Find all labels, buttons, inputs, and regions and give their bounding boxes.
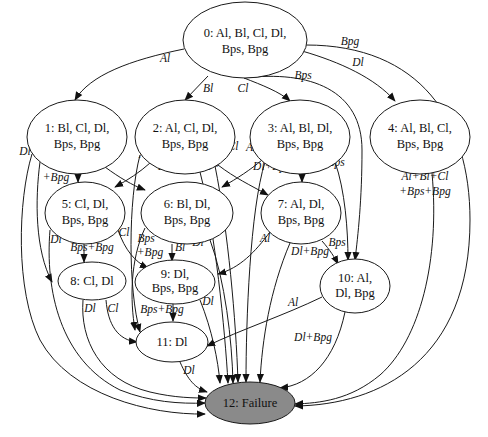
edge-label-9-11: Bps+Bpg bbox=[140, 303, 184, 316]
edge-7-12 bbox=[260, 243, 290, 382]
node-3[interactable]: 3: Al, Bl, Dl, Bps, Bpg bbox=[250, 100, 350, 174]
edge-3-12 bbox=[246, 162, 265, 382]
edge-2-5 bbox=[115, 163, 150, 187]
node-6[interactable]: 6: Bl, Dl, Bps, Bpg bbox=[141, 182, 233, 244]
node-6-label-line1: 6: Bl, Dl, bbox=[164, 197, 211, 211]
edge-label-0-3: Cl bbox=[238, 82, 249, 94]
node-10[interactable]: 10: Al, Dl, Bpg bbox=[320, 259, 390, 313]
node-10-label-line1: 10: Al, bbox=[338, 271, 372, 285]
edge-label-0-10: Bps bbox=[294, 69, 312, 82]
node-8-label-line1: 8: Cl, Dl bbox=[70, 274, 114, 288]
node-4-label-line2: Bps, Bpg bbox=[397, 137, 444, 151]
node-11[interactable]: 11: Dl bbox=[136, 322, 208, 362]
node-10-label-line2: Dl, Bpg bbox=[335, 286, 375, 300]
node-9-label-line1: 9: Dl, bbox=[161, 267, 189, 281]
edge-label-0-12: Bpg bbox=[341, 35, 360, 48]
node-12-failure[interactable]: 12: Failure bbox=[205, 382, 295, 424]
node-4-label-line1: 4: Al, Bl, Cl, bbox=[388, 121, 452, 135]
node-7-label-line1: 7: Al, Dl, bbox=[278, 197, 325, 211]
edge-label-7-12: Dl+Bpg bbox=[290, 245, 329, 258]
node-7-label-line2: Bps, Bpg bbox=[278, 213, 325, 227]
node-7[interactable]: 7: Al, Dl, Bps, Bpg bbox=[261, 182, 341, 244]
edge-label-0-1: Al bbox=[159, 52, 170, 64]
edge-label-8-12: Dl bbox=[83, 302, 96, 314]
edge-label-11-12: Dl bbox=[182, 364, 195, 376]
edge-label-10-12: Dl+Bpg bbox=[293, 331, 332, 344]
node-2-label-line1: 2: Al, Cl, Dl, bbox=[153, 121, 218, 135]
edge-label-6-11-line2: +Bpg bbox=[137, 246, 164, 259]
node-0-label-line2: Bps, Bpg bbox=[222, 42, 269, 56]
node-5-label-line1: 5: Cl, Dl, bbox=[62, 197, 109, 211]
edge-label-4-12-line2: +Bps+Bpg bbox=[399, 185, 451, 198]
node-2[interactable]: 2: Al, Cl, Dl, Bps, Bpg bbox=[135, 100, 235, 174]
node-12-label: 12: Failure bbox=[223, 396, 278, 410]
node-6-label-line2: Bps, Bpg bbox=[164, 213, 211, 227]
edge-label-7-10: Bps bbox=[328, 236, 346, 249]
node-9-label-line2: Bps, Bpg bbox=[152, 281, 199, 295]
edge-label-7-9: Al bbox=[259, 232, 270, 244]
node-3-label-line2: Bps, Bpg bbox=[277, 137, 324, 151]
edge-5-12 bbox=[49, 230, 205, 403]
node-3-label-line1: 3: Al, Bl, Dl, bbox=[268, 121, 333, 135]
node-4[interactable]: 4: Al, Bl, Cl, Bps, Bpg bbox=[370, 100, 470, 174]
state-transition-diagram: Al Bl Cl Dl Bps Bpg Bl Cl Bps +Bpg Dl Al… bbox=[0, 0, 488, 437]
node-2-label-line2: Bps, Bpg bbox=[162, 137, 209, 151]
edge-label-8-11: Cl bbox=[108, 302, 119, 314]
node-9[interactable]: 9: Dl, Bps, Bpg bbox=[135, 260, 215, 304]
edge-10-12 bbox=[280, 312, 345, 388]
edge-label-0-4: Dl bbox=[351, 56, 364, 68]
node-0[interactable]: 0: Al, Bl, Cl, Dl, Bps, Bpg bbox=[183, 2, 307, 78]
node-1-label-line1: 1: Bl, Cl, Dl, bbox=[45, 121, 110, 135]
node-5-label-line2: Bps, Bpg bbox=[62, 213, 109, 227]
nodes: 0: Al, Bl, Cl, Dl, Bps, Bpg 1: Bl, Cl, D… bbox=[27, 2, 470, 424]
edge-0-3 bbox=[244, 78, 290, 101]
edge-label-0-2: Bl bbox=[203, 82, 213, 94]
edge-label-10-11: Al bbox=[287, 296, 298, 308]
node-5[interactable]: 5: Cl, Dl, Bps, Bpg bbox=[45, 182, 125, 244]
edge-1-6 bbox=[105, 167, 145, 190]
node-11-label-line1: 11: Dl bbox=[156, 335, 188, 349]
node-1[interactable]: 1: Bl, Cl, Dl, Bps, Bpg bbox=[27, 100, 127, 174]
node-1-label-line2: Bps, Bpg bbox=[54, 137, 101, 151]
node-8[interactable]: 8: Cl, Dl bbox=[58, 262, 126, 300]
node-0-label-line1: 0: Al, Bl, Cl, Dl, bbox=[204, 26, 287, 40]
